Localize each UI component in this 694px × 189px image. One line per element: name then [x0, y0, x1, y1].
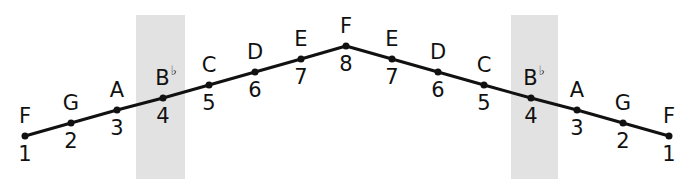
note-label: B♭ — [523, 68, 545, 89]
scale-point-dot — [481, 82, 488, 89]
scale-point-dot — [298, 56, 305, 63]
note-label: A — [570, 80, 584, 101]
note-name: G — [615, 91, 631, 115]
scale-point-dot — [22, 133, 29, 140]
scale-arch-diagram: F1G2A3B♭4C5D6E7F8E7D6C5B♭4A3G2F1 — [0, 0, 694, 189]
note-label: D — [430, 42, 446, 63]
note-name: E — [385, 27, 398, 51]
note-label: F — [19, 106, 31, 127]
note-name: F — [663, 104, 675, 128]
scale-point-dot — [114, 107, 121, 114]
scale-point-dot — [343, 43, 350, 50]
scale-point-dot — [389, 56, 396, 63]
note-label: B♭ — [155, 68, 177, 89]
scale-degree-label: 8 — [339, 54, 352, 75]
scale-degree-label: 2 — [64, 131, 77, 152]
scale-point-dot — [620, 120, 627, 127]
note-label: C — [202, 55, 217, 76]
note-name: E — [294, 27, 307, 51]
note-label: A — [110, 80, 124, 101]
scale-degree-label: 1 — [662, 144, 675, 165]
note-label: G — [63, 93, 79, 114]
scale-point-dot — [528, 95, 535, 102]
note-name: B — [155, 66, 169, 90]
scale-point-dot — [68, 120, 75, 127]
scale-degree-label: 4 — [156, 106, 169, 127]
note-name: C — [477, 53, 492, 77]
note-name: C — [202, 53, 217, 77]
flat-sign-icon: ♭ — [171, 63, 177, 78]
scale-degree-label: 7 — [294, 67, 307, 88]
scale-degree-label: 4 — [524, 106, 537, 127]
scale-point-dot — [666, 133, 673, 140]
scale-degree-label: 6 — [431, 80, 444, 101]
note-name: A — [570, 78, 584, 102]
scale-degree-label: 2 — [616, 131, 629, 152]
note-name: A — [110, 78, 124, 102]
scale-degree-label: 5 — [477, 93, 490, 114]
note-label: E — [385, 29, 398, 50]
note-name: B — [523, 66, 537, 90]
scale-point-dot — [206, 82, 213, 89]
note-name: D — [247, 40, 263, 64]
note-label: F — [663, 106, 675, 127]
note-name: F — [340, 14, 352, 38]
note-label: C — [477, 55, 492, 76]
scale-degree-label: 3 — [110, 118, 123, 139]
scale-degree-label: 3 — [570, 118, 583, 139]
scale-degree-label: 5 — [202, 93, 215, 114]
note-name: F — [19, 104, 31, 128]
note-label: E — [294, 29, 307, 50]
scale-point-dot — [574, 107, 581, 114]
note-label: D — [247, 42, 263, 63]
flat-sign-icon: ♭ — [539, 63, 545, 78]
scale-point-dot — [160, 95, 167, 102]
note-label: G — [615, 93, 631, 114]
note-name: G — [63, 91, 79, 115]
scale-point-dot — [252, 69, 259, 76]
note-label: F — [340, 16, 352, 37]
scale-degree-label: 7 — [385, 67, 398, 88]
note-name: D — [430, 40, 446, 64]
scale-point-dot — [435, 69, 442, 76]
scale-degree-label: 1 — [18, 144, 31, 165]
scale-degree-label: 6 — [248, 80, 261, 101]
